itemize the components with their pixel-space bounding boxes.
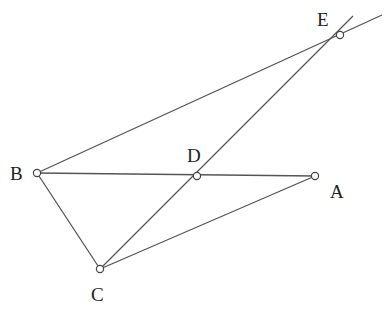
- label-B: B: [10, 163, 23, 184]
- point-D: [193, 172, 200, 179]
- line-BE-extended: [37, 15, 382, 173]
- label-A: A: [330, 181, 344, 202]
- segment-BA: [37, 173, 315, 176]
- point-E: [336, 31, 343, 38]
- label-D: D: [187, 145, 201, 166]
- label-C: C: [91, 284, 104, 305]
- label-E: E: [317, 9, 329, 30]
- geometry-diagram: A B C D E: [0, 0, 386, 313]
- point-C: [96, 265, 103, 272]
- point-A: [311, 172, 318, 179]
- segment-BC: [37, 173, 100, 269]
- segment-CA: [100, 176, 315, 269]
- point-B: [33, 169, 40, 176]
- line-CE-extended: [100, 16, 353, 269]
